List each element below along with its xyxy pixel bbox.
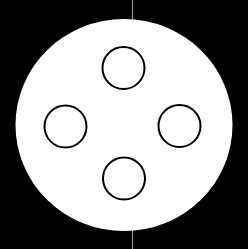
hole-bottom <box>103 158 145 200</box>
hole-top <box>103 47 145 89</box>
disc-diagram <box>0 0 248 249</box>
hole-right <box>159 105 201 147</box>
hole-left <box>45 106 87 148</box>
